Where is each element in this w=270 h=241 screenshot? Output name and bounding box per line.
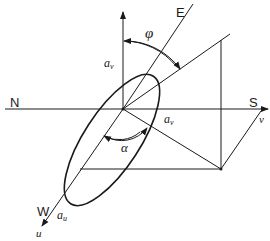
u-axis <box>42 109 123 226</box>
v-projection <box>221 111 261 169</box>
label-west: W <box>37 204 50 219</box>
azimuth-line <box>123 34 230 109</box>
label-east: E <box>176 5 185 20</box>
error-ellipse-diagram: N S E W φ α v u av av au <box>0 0 270 241</box>
label-a-v-top: av <box>104 56 114 71</box>
label-phi: φ <box>145 25 153 41</box>
label-a-v-right: av <box>164 112 174 127</box>
label-north: N <box>10 95 19 110</box>
label-alpha: α <box>121 140 129 155</box>
label-u-axis: u <box>36 227 42 239</box>
label-south: S <box>249 95 258 110</box>
label-v-axis: v <box>259 113 264 125</box>
label-a-u: au <box>57 208 67 223</box>
